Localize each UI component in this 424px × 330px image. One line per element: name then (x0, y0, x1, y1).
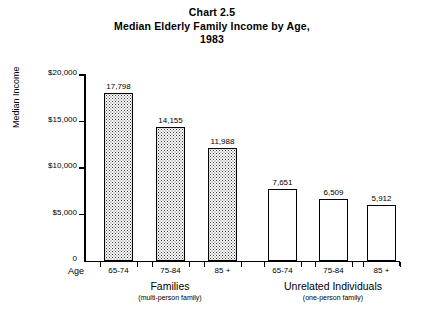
group-title: Unrelated Individuals (284, 280, 382, 293)
x-tick-label-unrelated-65-74: 65-74 (272, 266, 292, 275)
group-subtitle: (one-person family) (284, 293, 382, 303)
x-axis-tick (352, 262, 353, 267)
y-tick-label-5000: $5,000 (53, 208, 77, 217)
group-title: Families (138, 280, 201, 293)
x-tick-label-families-75-84: 75-84 (160, 266, 180, 275)
bar-value-label: 6,509 (323, 188, 343, 197)
x-axis-tick (264, 262, 265, 267)
group-caption-families: Families (multi-person family) (138, 280, 201, 303)
y-axis-line (84, 74, 86, 262)
x-axis-tick (100, 262, 101, 267)
chart-title-line-2: Median Elderly Family Income by Age, (0, 20, 424, 34)
x-axis-tick (363, 262, 364, 267)
bar-value-label: 14,155 (158, 116, 182, 125)
bar-value-label: 11,988 (211, 137, 235, 146)
bar-families-85-plus: 11,988 (208, 148, 237, 261)
x-axis-tick (301, 262, 302, 267)
bar-unrelated-65-74: 7,651 (268, 189, 297, 261)
x-tick-label-families-65-74: 65-74 (108, 266, 128, 275)
x-tick-label-unrelated-85-plus: 85 + (374, 266, 390, 275)
bar-families-65-74: 17,798 (104, 93, 133, 261)
x-axis-title: Age (68, 266, 84, 276)
bar-value-label: 17,798 (106, 82, 130, 91)
bar-value-label: 5,912 (371, 194, 391, 203)
x-axis-tick (241, 262, 242, 267)
y-tick-label-20000: $20,000 (48, 68, 77, 77)
group-caption-unrelated: Unrelated Individuals (one-person family… (284, 280, 382, 303)
x-axis-tick (315, 262, 316, 267)
bar-unrelated-75-84: 6,509 (319, 199, 348, 261)
x-axis-tick (400, 262, 401, 267)
y-tick-label-0: 0 (73, 254, 77, 263)
x-axis-tick (204, 262, 205, 267)
plot-area: $20,000 $15,000 $10,000 $5,000 0 17,798 … (84, 74, 400, 262)
chart-title-line-3: 1983 (0, 33, 424, 47)
x-axis-tick (137, 262, 138, 267)
x-axis-tick (152, 262, 153, 267)
bar-unrelated-85-plus: 5,912 (367, 205, 396, 261)
x-axis-tick (189, 262, 190, 267)
y-tick-label-15000: $15,000 (48, 115, 77, 124)
bar-value-label: 7,651 (272, 178, 292, 187)
x-tick-label-unrelated-75-84: 75-84 (323, 266, 343, 275)
chart-title-line-1: Chart 2.5 (0, 6, 424, 20)
x-tick-label-families-85-plus: 85 + (215, 266, 231, 275)
y-axis-title: Median Income (11, 66, 21, 128)
chart-title-block: Chart 2.5 Median Elderly Family Income b… (0, 6, 424, 47)
bar-families-75-84: 14,155 (156, 127, 185, 261)
y-tick-label-10000: $10,000 (48, 161, 77, 170)
group-subtitle: (multi-person family) (138, 293, 201, 303)
chart-figure: Chart 2.5 Median Elderly Family Income b… (0, 0, 424, 330)
